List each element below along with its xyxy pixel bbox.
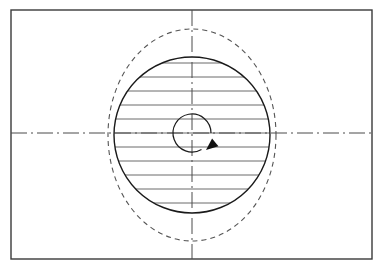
technical-drawing-svg — [0, 0, 385, 270]
drawing-canvas — [0, 0, 385, 270]
